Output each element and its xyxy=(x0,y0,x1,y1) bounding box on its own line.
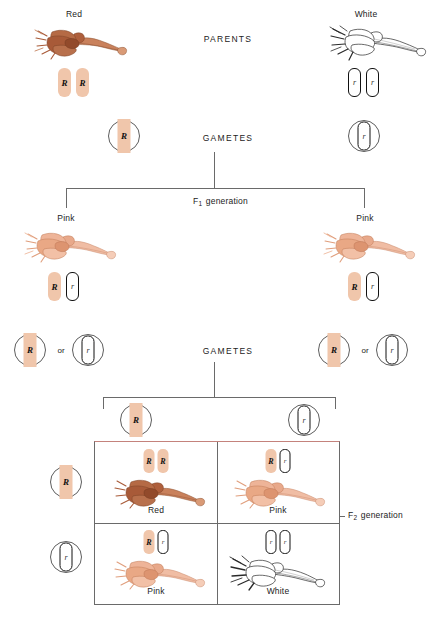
red-flower-parent xyxy=(22,22,130,62)
f1-right-phenotype-label: Pink xyxy=(356,213,373,223)
f1-gamete-right-dominant-allele: R xyxy=(328,333,341,367)
pink-flower-f2-rr-bottom xyxy=(103,554,207,590)
connector-f1-crossbar xyxy=(66,188,364,189)
punnett-column-gamete-dominant-allele: R xyxy=(130,403,143,437)
punnett-row-gamete-recessive: r xyxy=(50,541,82,573)
f2-generation-tick xyxy=(340,516,345,517)
parent-gamete-right-allele: r xyxy=(358,122,371,151)
f1-gamete-left-recessive: r xyxy=(72,334,104,366)
f1-gamete-right-recessive-allele: r xyxy=(386,336,399,365)
pink-flower-f1-left xyxy=(14,226,118,264)
gametes-stage-label-1: GAMETES xyxy=(203,133,254,143)
punnett-cell-bottom-right-genotype: r r xyxy=(266,530,291,554)
punnett-cell-bottom-left: R r Pink xyxy=(95,523,217,604)
parent-gamete-left-allele: R xyxy=(118,119,131,153)
f1-gamete-right-conjunction: or xyxy=(361,346,368,355)
punnett-cell-top-right-genotype: R r xyxy=(266,449,291,473)
punnett-column-gamete-recessive-allele: r xyxy=(298,406,311,435)
punnett-cell-bottom-left-allele-2: r xyxy=(158,530,169,554)
connector-punnett-crossbar xyxy=(103,397,335,398)
connector-f1-right-drop xyxy=(364,188,365,208)
punnett-cell-top-left-allele-2: R xyxy=(158,449,169,473)
parent-right-phenotype-label: White xyxy=(355,9,378,19)
f2-generation-subscript: 2 xyxy=(353,514,358,521)
f2-generation-suffix: generation xyxy=(358,510,403,520)
punnett-row-gamete-dominant-allele: R xyxy=(60,465,73,499)
f1-left-allele-2: r xyxy=(66,272,79,301)
punnett-cell-top-right-allele-2: r xyxy=(280,449,291,473)
punnett-cell-bottom-right-allele-2: r xyxy=(280,530,291,554)
f1-left-phenotype-label: Pink xyxy=(57,213,74,223)
pink-flower-f1-right xyxy=(313,226,417,264)
punnett-cell-top-left-genotype: R R xyxy=(144,449,169,473)
gametes-stage-label-2: GAMETES xyxy=(203,346,254,356)
f2-generation-label: F2 generation xyxy=(348,510,403,520)
f1-left-allele-1: R xyxy=(48,272,61,301)
f1-generation-suffix: generation xyxy=(203,196,248,206)
punnett-cell-top-left-phenotype: Red xyxy=(148,505,164,515)
punnett-cell-top-right-phenotype: Pink xyxy=(269,505,286,515)
f1-gamete-left-conjunction: or xyxy=(57,346,64,355)
connector-punnett-left-drop xyxy=(103,397,104,409)
genetics-diagram: Red R R PARENTS White xyxy=(0,0,435,629)
punnett-row-gamete-recessive-allele: r xyxy=(60,543,73,572)
punnett-cell-top-left-allele-1: R xyxy=(144,449,155,473)
f1-right-allele-2: r xyxy=(366,272,379,301)
punnett-cell-top-right-allele-1: R xyxy=(266,449,277,473)
punnett-cell-top-left: R R Red xyxy=(95,442,217,523)
f1-gamete-left-dominant-allele: R xyxy=(24,333,37,367)
punnett-column-gamete-dominant: R xyxy=(120,404,152,436)
parent-gamete-right: r xyxy=(348,120,380,152)
punnett-cell-top-right: R r Pink xyxy=(217,442,339,523)
parent-left-allele-2: R xyxy=(76,68,89,97)
punnett-cell-bottom-right-allele-1: r xyxy=(266,530,277,554)
f1-generation-label: F1 generation xyxy=(193,196,248,206)
connector-f1-left-drop xyxy=(66,188,67,208)
pink-flower-f2-rr-top xyxy=(223,473,327,509)
parents-stage-label: PARENTS xyxy=(204,34,253,44)
parent-gamete-left: R xyxy=(108,120,140,152)
white-flower-parent xyxy=(322,22,428,62)
f1-gamete-right-dominant: R xyxy=(318,334,350,366)
punnett-cell-bottom-left-genotype: R r xyxy=(144,530,169,554)
f1-right-allele-1: R xyxy=(348,272,361,301)
f1-gamete-left-dominant: R xyxy=(14,334,46,366)
parent-right-allele-2: r xyxy=(366,68,379,97)
f1-gamete-right-recessive: r xyxy=(376,334,408,366)
punnett-cell-bottom-right: r r xyxy=(217,523,339,604)
punnett-column-gamete-recessive: r xyxy=(288,404,320,436)
f1-gamete-left-recessive-allele: r xyxy=(82,336,95,365)
parent-left-phenotype-label: Red xyxy=(66,9,82,19)
parent-right-allele-1: r xyxy=(348,68,361,97)
parent-left-allele-1: R xyxy=(58,68,71,97)
red-flower-f2-rr xyxy=(103,473,207,509)
punnett-cell-bottom-left-allele-1: R xyxy=(144,530,155,554)
connector-punnett-right-drop xyxy=(335,397,336,409)
punnett-square: R R Red xyxy=(94,441,340,605)
connector-down-to-f1 xyxy=(214,152,215,188)
punnett-row-gamete-dominant: R xyxy=(50,466,82,498)
punnett-cell-bottom-right-phenotype: White xyxy=(267,586,290,596)
f1-generation-subscript: 1 xyxy=(198,200,203,207)
connector-down-to-punnett xyxy=(214,362,215,397)
punnett-cell-bottom-left-phenotype: Pink xyxy=(147,586,164,596)
